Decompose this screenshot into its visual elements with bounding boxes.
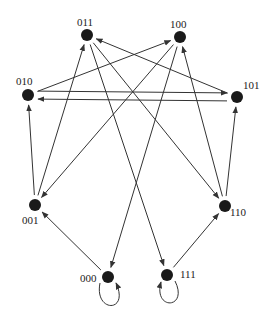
edge-110-to-100	[183, 47, 223, 197]
edge-001-to-011	[38, 45, 84, 196]
edge-100-to-000	[111, 47, 177, 268]
node-label-100: 100	[170, 18, 187, 30]
node-111	[161, 269, 173, 281]
state-diagram: 011100010101001110000111	[0, 0, 271, 321]
node-label-111: 111	[180, 268, 196, 280]
edge-011-to-111	[90, 44, 164, 265]
edge-101-to-011	[96, 39, 228, 93]
edge-111-to-111	[160, 281, 178, 303]
edge-100-to-001	[42, 45, 174, 198]
node-label-000: 000	[80, 272, 97, 284]
nodes-group	[22, 29, 243, 283]
edge-001-to-010	[29, 105, 35, 195]
edge-110-to-101	[226, 107, 236, 196]
node-100	[174, 31, 186, 43]
edge-101-to-010	[38, 99, 227, 101]
node-label-010: 010	[16, 75, 33, 87]
edge-000-to-001	[42, 212, 101, 270]
node-001	[29, 199, 41, 211]
edge-010-to-100	[37, 41, 170, 92]
edge-000-to-000	[99, 283, 119, 306]
edges-group	[29, 39, 236, 306]
node-011	[81, 29, 93, 41]
node-label-011: 011	[77, 16, 93, 28]
node-010	[22, 89, 34, 101]
node-000	[102, 271, 114, 283]
edge-111-to-110	[173, 214, 218, 268]
node-label-101: 101	[243, 79, 260, 91]
node-101	[231, 91, 243, 103]
graph-canvas	[0, 0, 271, 321]
edge-011-to-110	[93, 43, 218, 198]
node-label-110: 110	[230, 206, 246, 218]
node-label-001: 001	[22, 214, 39, 226]
